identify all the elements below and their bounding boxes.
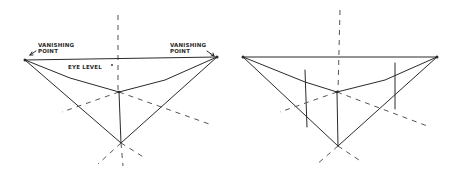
eye-level-line (25, 57, 217, 60)
ground-axis-bottom-left (98, 143, 121, 164)
ground-axis-bottom-down (121, 143, 123, 166)
vanishing-point-left (24, 59, 27, 62)
arrow-icon (30, 51, 36, 55)
ground-axis-right (119, 92, 212, 125)
front-corner (336, 91, 339, 94)
front-corner (118, 91, 121, 94)
perspective-diagram: VANISHING POINT VANISHING POINT EYE LEVE… (0, 0, 461, 178)
front-vertical-edge (337, 92, 338, 146)
ground-axis-bottom-right (121, 143, 145, 158)
vanishing-point-right (436, 56, 439, 59)
front-vertical-edge (119, 92, 121, 143)
right-bottom-edge (121, 57, 217, 143)
left-bottom-edge (243, 57, 338, 146)
vanishing-point-left (242, 56, 245, 59)
ground-axis-right (337, 92, 430, 127)
left-vertical-edge (305, 70, 307, 127)
ground-axis-left (62, 92, 119, 112)
vp-left-label-2: POINT (38, 48, 58, 54)
vertical-guide (338, 10, 340, 92)
top-edges (243, 57, 437, 92)
top-edges (25, 57, 217, 92)
vanishing-point-right (216, 56, 219, 59)
ground-axis-bottom-right (338, 146, 362, 162)
vp-right-label-2: POINT (170, 48, 190, 54)
right-panel (242, 10, 439, 165)
ground-axis-bottom-left (316, 146, 338, 165)
ground-axis-left (280, 92, 337, 112)
arrow-icon (207, 51, 214, 56)
eye-level-mark (111, 64, 113, 66)
left-bottom-edge (25, 60, 121, 143)
left-panel: VANISHING POINT VANISHING POINT EYE LEVE… (24, 15, 219, 166)
right-bottom-edge (338, 57, 437, 146)
eye-level-label: EYE LEVEL (68, 64, 102, 70)
